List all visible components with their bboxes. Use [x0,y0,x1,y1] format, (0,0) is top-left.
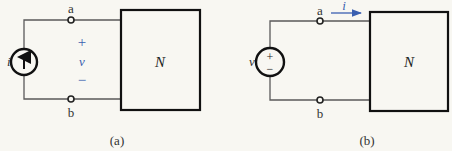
network-label-n: N [403,54,415,70]
voltage-source-b: + − [256,48,284,76]
terminal-label-b: b [68,105,75,120]
minus-sign: − [78,72,86,88]
terminal-a [68,17,74,23]
network-label-n: N [154,54,166,70]
caption-a: (a) [110,133,124,148]
wire-bottom-a [24,75,121,99]
terminal-label-b: b [317,106,324,121]
wire-top-b [270,21,370,48]
terminal-b [317,97,323,103]
voltage-label-v: v [79,54,85,69]
current-label-i: i [342,0,346,13]
caption-b: (b) [359,133,374,148]
diagram-a: i a b + v − N (a) [7,1,200,148]
terminal-label-a: a [317,3,323,18]
terminal-a [317,18,323,24]
terminal-b [68,96,74,102]
source-minus-sign: − [267,62,274,76]
circuit-figure: i a b + v − N (a) + − v a b i [0,0,452,151]
current-source-a [11,49,37,75]
wire-top-a [24,20,121,49]
source-label-v: v [249,54,255,69]
terminal-label-a: a [68,1,74,16]
plus-sign: + [78,34,86,50]
source-label-i: i [7,54,11,69]
diagram-b: + − v a b i N (b) [249,0,448,148]
